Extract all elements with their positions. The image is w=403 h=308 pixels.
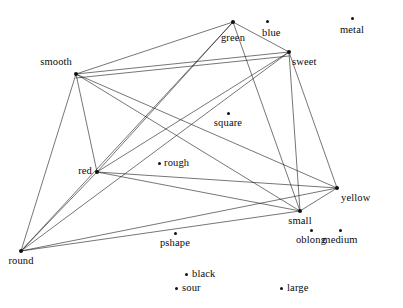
node-label-large: large [287,283,309,294]
node-label-sweet: sweet [292,57,317,68]
graph-diagram: greenbluemetalsweetsmoothsquareroughredy… [0,0,403,308]
node-label-blue: blue [262,28,281,39]
graph-edge [289,52,337,188]
node-label-sour: sour [182,283,201,294]
graph-edge [233,22,300,211]
node-label-metal: metal [340,25,364,36]
graph-edge [21,52,289,251]
edge-layer [0,0,403,308]
graph-edge [76,74,97,172]
node-label-small: small [288,216,312,227]
graph-edge [76,74,337,188]
graph-edge [289,52,300,211]
node-label-yellow: yellow [341,193,370,204]
node-label-pshape: pshape [160,238,190,249]
node-label-green: green [221,33,245,44]
node-label-round: round [8,256,33,267]
graph-edge [97,172,300,211]
graph-edge [76,74,300,211]
graph-edge [76,52,289,74]
graph-edge [76,56,289,78]
graph-edge [97,52,289,172]
node-label-red: red [78,166,92,177]
node-label-medium: medium [322,235,357,246]
node-label-black: black [192,269,216,280]
node-label-smooth: smooth [40,57,72,68]
graph-edge [97,172,337,188]
graph-edge [21,74,76,251]
node-label-square: square [214,118,242,129]
graph-edge [21,172,97,251]
node-label-rough: rough [164,158,189,169]
